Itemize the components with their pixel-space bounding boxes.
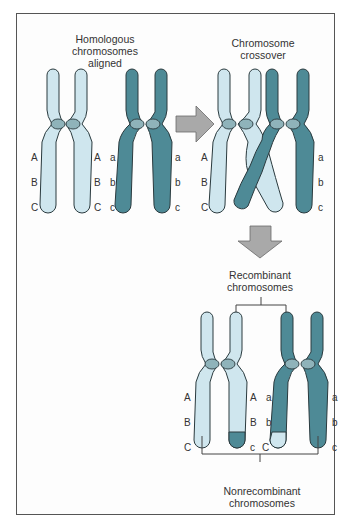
result-dark-right-c: c	[332, 442, 337, 453]
label-nonrecombinant: Nonrecombinant chromosomes	[212, 485, 312, 509]
gene-b-left: b	[110, 177, 116, 188]
result-dark-left-a: a	[266, 392, 272, 403]
recombinant-bracket	[236, 297, 286, 318]
result-dark-right-a: a	[332, 392, 338, 403]
gene-a-right: a	[175, 152, 181, 163]
result-light-left-B: B	[184, 417, 191, 428]
gene-a-left: a	[110, 152, 116, 163]
result-light-right-A: A	[250, 392, 257, 403]
gene-B-right: B	[94, 177, 101, 188]
result-dark-chromosomes	[270, 312, 328, 448]
result-dark-right-b: b	[332, 417, 338, 428]
crossover-gene-A: A	[201, 152, 208, 163]
arrow-right-icon	[176, 106, 214, 142]
crossover-gene-C: C	[201, 202, 208, 213]
arrow-down-icon	[238, 226, 282, 258]
gene-c-right: c	[175, 202, 180, 213]
result-light-left-C: C	[184, 442, 191, 453]
result-dark-left-C: C	[262, 442, 269, 453]
crossover-gene-c: c	[318, 202, 323, 213]
result-dark-left-b: b	[266, 417, 272, 428]
gene-B-left: B	[31, 177, 38, 188]
label-recombinant: Recombinant chromosomes	[215, 269, 305, 293]
label-homologous-aligned: Homologous chromosomes aligned	[60, 33, 150, 69]
crossover-gene-b: b	[318, 177, 324, 188]
result-light-chromosomes	[194, 312, 247, 448]
light-chromosome-pair-aligned	[40, 69, 92, 213]
gene-C-right: C	[94, 202, 101, 213]
dark-chromosome-pair-aligned	[115, 69, 172, 213]
gene-C-left: C	[31, 202, 38, 213]
crossover-gene-a: a	[318, 152, 324, 163]
crossover-gene-B: B	[201, 177, 208, 188]
result-light-right-B: B	[250, 417, 257, 428]
result-light-right-c: c	[250, 442, 255, 453]
label-chromosome-crossover: Chromosome crossover	[218, 37, 308, 61]
gene-A-left: A	[31, 152, 38, 163]
result-light-left-A: A	[184, 392, 191, 403]
gene-c-left: c	[110, 202, 115, 213]
nonrecombinant-bracket	[202, 436, 318, 462]
diagram-canvas: .lt { fill: #cfe6ee; stroke: #2a3a3e; st…	[0, 0, 364, 526]
gene-A-right: A	[94, 152, 101, 163]
gene-b-right: b	[175, 177, 181, 188]
